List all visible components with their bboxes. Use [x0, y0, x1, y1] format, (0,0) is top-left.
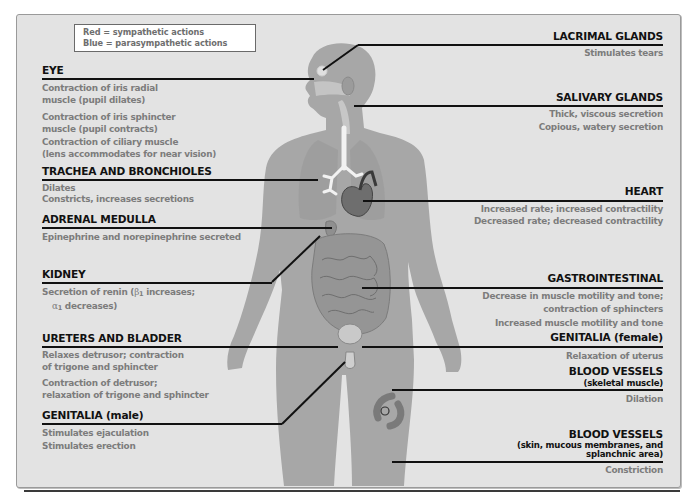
kidney-action-line-1: Secretion of renin (β1 increases;: [42, 286, 195, 300]
leader-bv-skin: [392, 461, 663, 463]
ureters-action-1: Relaxes detrusor; contraction of trigone…: [42, 350, 184, 373]
color-legend: Red = sympathetic actions Blue = parasym…: [74, 24, 256, 52]
heading-lacrimal: LACRIMAL GLANDS: [553, 30, 663, 42]
kidney-actions: Secretion of renin (β1 increases; α1 dec…: [42, 286, 195, 315]
leader-trachea: [42, 179, 318, 181]
ureters-action-line: of trigone and sphincter: [42, 362, 184, 374]
heart-action-line: Decreased rate; decreased contractility: [474, 215, 663, 227]
eye-action-1: Contraction of iris radial muscle (pupil…: [42, 82, 158, 107]
leader-genitalia-female: [362, 346, 663, 348]
kidney-action-line-2: α1 decreases): [42, 300, 195, 314]
heading-salivary: SALIVARY GLANDS: [556, 91, 663, 103]
genitalia-male-action-line: Stimulates ejaculation: [42, 427, 149, 440]
gi-action-line: Increased muscle motility and tone: [482, 317, 663, 330]
ureters-action-2: Contraction of detrusor; relaxation of t…: [42, 378, 209, 401]
eye-action-line: muscle (pupil contracts): [42, 123, 216, 135]
adrenal-actions: Epinephrine and norepinephrine secreted: [42, 231, 241, 243]
leader-adrenal: [42, 227, 332, 229]
heading-genitalia-female: GENITALIA (female): [550, 331, 663, 343]
heading-gi: GASTROINTESTINAL: [547, 272, 663, 284]
trachea-action-line: Dilates: [42, 183, 194, 194]
heart-action-line: Increased rate; increased contractility: [474, 203, 663, 215]
eye-action-line: Contraction of ciliary muscle: [42, 136, 216, 148]
leader-lacrimal-diagonal: [323, 45, 358, 70]
eye-action-line: Contraction of iris sphincter: [42, 111, 216, 123]
heading-adrenal: ADRENAL MEDULLA: [42, 213, 156, 225]
genitalia-female-actions: Relaxation of uterus: [566, 350, 663, 362]
heading-genitalia-male: GENITALIA (male): [42, 409, 143, 421]
bv-skeletal-actions: Dilation: [626, 393, 663, 405]
gi-actions: Decrease in muscle motility and tone; co…: [482, 290, 663, 330]
eye-action-2: Contraction of iris sphincter muscle (pu…: [42, 111, 216, 161]
heading-heart: HEART: [625, 185, 663, 197]
legend-sympathetic: Red = sympathetic actions: [83, 27, 255, 38]
ureters-action-line: Relaxes detrusor; contraction: [42, 350, 184, 362]
trachea-actions: Dilates Constricts, increases secretions: [42, 183, 194, 205]
heart-actions: Increased rate; increased contractility …: [474, 203, 663, 227]
leader-gi: [362, 287, 663, 289]
ureters-action-line: Contraction of detrusor;: [42, 378, 209, 390]
leader-genitalia-male-diagonal: [282, 362, 345, 424]
ureters-action-line: relaxation of trigone and sphincter: [42, 390, 209, 402]
heading-trachea: TRACHEA AND BRONCHIOLES: [42, 165, 212, 177]
salivary-action-line: Copious, watery secretion: [539, 121, 663, 134]
gi-action-line: contraction of sphincters: [482, 303, 663, 316]
leader-kidney-diagonal: [272, 236, 320, 282]
legend-parasympathetic: Blue = parasympathetic actions: [83, 38, 255, 49]
heading-bv-skin: BLOOD VESSELS: [569, 428, 663, 440]
leader-salivary: [354, 105, 663, 107]
trachea-action-line: Constricts, increases secretions: [42, 194, 194, 205]
eye-action-line: (lens accommodates for near vision): [42, 148, 216, 160]
leader-ureters: [42, 346, 338, 348]
kidney-text: decreases): [62, 301, 117, 311]
bv-skeletal-action-line: Dilation: [626, 393, 663, 405]
salivary-actions: Thick, viscous secretion Copious, watery…: [539, 108, 663, 134]
leader-lacrimal: [358, 44, 663, 46]
eye-action-line: muscle (pupil dilates): [42, 94, 158, 106]
heading-ureters: URETERS AND BLADDER: [42, 332, 182, 344]
lacrimal-actions: Stimulates tears: [584, 47, 663, 59]
genitalia-male-actions: Stimulates ejaculation Stimulates erecti…: [42, 427, 149, 453]
lacrimal-action-line: Stimulates tears: [584, 47, 663, 59]
salivary-action-line: Thick, viscous secretion: [539, 108, 663, 121]
bv-skin-actions: Constriction: [605, 464, 663, 476]
genitalia-male-action-line: Stimulates erection: [42, 440, 149, 453]
genitalia-female-action-line: Relaxation of uterus: [566, 350, 663, 362]
leader-heart: [363, 200, 663, 202]
adrenal-action-line: Epinephrine and norepinephrine secreted: [42, 231, 241, 243]
kidney-text: increases;: [143, 287, 194, 297]
leader-bv-skeletal: [392, 389, 663, 391]
leader-genitalia-male: [42, 423, 282, 425]
heading-bv-skeletal: BLOOD VESSELS: [569, 365, 663, 377]
heading-kidney: KIDNEY: [42, 268, 86, 280]
eye-action-line: Contraction of iris radial: [42, 82, 158, 94]
bv-skin-action-line: Constriction: [605, 464, 663, 476]
kidney-text: Secretion of renin (: [42, 287, 134, 297]
subheading-bv-skin-2: splanchnic area): [586, 450, 663, 460]
subheading-bv-skeletal: (skeletal muscle): [583, 379, 663, 389]
gi-action-line: Decrease in muscle motility and tone;: [482, 290, 663, 303]
leader-kidney: [42, 282, 272, 284]
heading-eye: EYE: [42, 64, 64, 76]
